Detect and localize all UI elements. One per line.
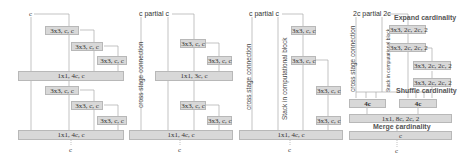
conv-block: 3x3, c, c	[316, 116, 341, 125]
cross-stage-label: cross stage connection	[137, 42, 144, 108]
conv-block: 3x3, c, c	[207, 116, 232, 125]
input-label: c partial c	[139, 10, 169, 18]
input-label: c partial c	[249, 10, 279, 18]
cross-stage-label: cross stage connection	[349, 26, 356, 92]
output-label: c	[69, 146, 72, 154]
merge-block: 1x1, 4c, c	[18, 130, 124, 140]
conv-block: 3x3, c, c	[180, 39, 206, 48]
conv-block: 3x3, c, c	[291, 26, 316, 35]
conv-block: 3x3, 2c, 2c, 2	[413, 61, 451, 70]
stack-label: Stack in computational block	[281, 38, 288, 120]
input-label: 2c partial 2c	[353, 10, 391, 18]
shuffle-box: 4c	[349, 99, 386, 108]
output-label: c	[178, 146, 181, 154]
merge-block: 1x1, 4c, c	[129, 130, 233, 140]
merge-block: 1x1, 3c, c	[155, 71, 233, 81]
merge-block: 1x1, 4c, c	[18, 71, 124, 81]
input-label: c	[29, 10, 32, 18]
conv-block: 3x3, c, c	[207, 56, 232, 65]
shuffle-box: 4c	[399, 99, 437, 108]
merge-block: 1x1, 4c, c	[239, 130, 343, 140]
final-block: c	[349, 131, 452, 140]
conv-block: 3x3, c, c	[180, 101, 206, 110]
conv-block: 3x3, c, c	[97, 116, 127, 125]
output-label: c	[395, 147, 398, 155]
merge-block: 1x1, 8c, 2c, 2	[349, 114, 452, 123]
conv-block: 3x3, c, c	[97, 56, 127, 65]
output-label: c	[288, 146, 291, 154]
cross-stage-label: cross stage connection	[245, 44, 252, 110]
merge-cardinality-label: Merge cardinality	[373, 123, 431, 130]
conv-block: 3x3, 2c, 2c, 2	[389, 25, 426, 34]
conv-block: 3x3, 2c, 2c, 2	[389, 43, 426, 52]
conv-block: 3x3, c, c	[291, 56, 316, 65]
stack-label: Stack in computational block	[385, 29, 391, 92]
expand-cardinality-label: Expand cardinality	[394, 14, 456, 21]
conv-block: 3x3, c, c	[45, 86, 79, 95]
conv-block: 3x3, c, c	[316, 86, 341, 95]
conv-block: 3x3, c, c	[71, 101, 103, 110]
conv-block: 3x3, c, c	[71, 42, 103, 51]
conv-block: 3x3, c, c	[45, 26, 79, 35]
conv-block: 3x3, 2c, 2c, 2	[413, 78, 451, 87]
shuffle-cardinality-label: Shuffle cardinality	[396, 87, 457, 94]
